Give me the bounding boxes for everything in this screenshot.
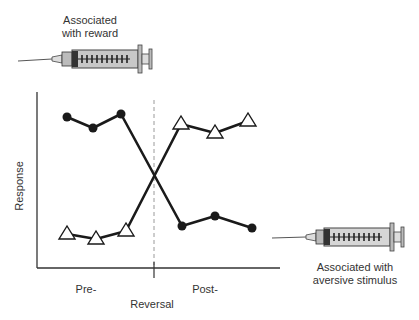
data-point-triangle <box>240 113 256 126</box>
data-point-circle <box>89 124 98 133</box>
data-point-circle <box>117 110 126 119</box>
data-point-circle <box>248 224 257 233</box>
x-label-post: Post- <box>192 283 218 295</box>
y-axis-label: Response <box>13 161 25 211</box>
data-point-circle <box>178 222 187 231</box>
data-point-circle <box>63 113 72 122</box>
data-point-triangle <box>118 223 134 236</box>
response-chart: Response Pre- Post- Reversal <box>0 0 419 320</box>
data-point-triangle <box>59 226 75 239</box>
x-label-pre: Pre- <box>76 283 97 295</box>
data-point-circle <box>211 212 220 221</box>
data-point-triangle <box>173 116 189 129</box>
x-axis-label: Reversal <box>130 298 173 310</box>
